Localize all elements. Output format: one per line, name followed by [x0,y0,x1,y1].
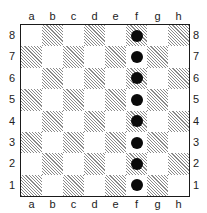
file-label-bottom-e: e [105,199,126,210]
file-label-top-c: c [63,11,84,22]
rank-label-right-4: 4 [190,116,202,127]
rank-label-right-2: 2 [190,158,202,169]
square-a1[interactable] [21,175,42,196]
black-disc-icon[interactable] [131,115,143,127]
square-g3[interactable] [147,132,168,153]
square-h5[interactable] [168,89,189,110]
square-g7[interactable] [147,46,168,67]
square-g6[interactable] [147,68,168,89]
file-label-bottom-h: h [168,199,189,210]
black-disc-icon[interactable] [131,158,143,170]
file-label-bottom-d: d [84,199,105,210]
square-h4[interactable] [168,111,189,132]
square-f4[interactable] [126,111,147,132]
rank-label-right-5: 5 [190,94,202,105]
square-h6[interactable] [168,68,189,89]
square-b6[interactable] [42,68,63,89]
square-a4[interactable] [21,111,42,132]
file-label-bottom-a: a [21,199,42,210]
file-label-bottom-c: c [63,199,84,210]
square-g1[interactable] [147,175,168,196]
square-c1[interactable] [63,175,84,196]
square-a5[interactable] [21,89,42,110]
square-f5[interactable] [126,89,147,110]
file-label-top-f: f [126,11,147,22]
square-b2[interactable] [42,153,63,174]
rank-label-right-1: 1 [190,180,202,191]
square-b7[interactable] [42,46,63,67]
square-e4[interactable] [105,111,126,132]
file-label-bottom-g: g [147,199,168,210]
square-c7[interactable] [63,46,84,67]
file-label-top-g: g [147,11,168,22]
rank-label-right-3: 3 [190,137,202,148]
square-b8[interactable] [42,25,63,46]
file-label-top-b: b [42,11,63,22]
square-c5[interactable] [63,89,84,110]
black-disc-icon[interactable] [131,30,143,42]
rank-label-left-6: 6 [6,73,18,84]
square-e3[interactable] [105,132,126,153]
square-a3[interactable] [21,132,42,153]
square-b4[interactable] [42,111,63,132]
black-disc-icon[interactable] [131,51,143,63]
file-label-top-a: a [21,11,42,22]
square-d2[interactable] [84,153,105,174]
square-d8[interactable] [84,25,105,46]
square-g4[interactable] [147,111,168,132]
square-d6[interactable] [84,68,105,89]
chessboard [20,24,190,197]
square-f7[interactable] [126,46,147,67]
rank-label-left-5: 5 [6,94,18,105]
rank-label-left-1: 1 [6,180,18,191]
square-e2[interactable] [105,153,126,174]
square-b5[interactable] [42,89,63,110]
file-label-bottom-f: f [126,199,147,210]
square-a2[interactable] [21,153,42,174]
square-b3[interactable] [42,132,63,153]
square-e6[interactable] [105,68,126,89]
square-g2[interactable] [147,153,168,174]
square-a8[interactable] [21,25,42,46]
file-label-top-e: e [105,11,126,22]
square-c3[interactable] [63,132,84,153]
square-h2[interactable] [168,153,189,174]
square-h7[interactable] [168,46,189,67]
board-grid [21,25,189,196]
square-f8[interactable] [126,25,147,46]
square-c2[interactable] [63,153,84,174]
square-g8[interactable] [147,25,168,46]
square-c8[interactable] [63,25,84,46]
square-c4[interactable] [63,111,84,132]
square-c6[interactable] [63,68,84,89]
square-d4[interactable] [84,111,105,132]
square-f6[interactable] [126,68,147,89]
file-label-top-h: h [168,11,189,22]
square-f3[interactable] [126,132,147,153]
square-e8[interactable] [105,25,126,46]
square-d3[interactable] [84,132,105,153]
square-e1[interactable] [105,175,126,196]
black-disc-icon[interactable] [131,137,143,149]
square-h8[interactable] [168,25,189,46]
black-disc-icon[interactable] [131,72,143,84]
square-a7[interactable] [21,46,42,67]
square-f1[interactable] [126,175,147,196]
square-h1[interactable] [168,175,189,196]
square-d7[interactable] [84,46,105,67]
square-d5[interactable] [84,89,105,110]
file-label-top-d: d [84,11,105,22]
square-e7[interactable] [105,46,126,67]
square-h3[interactable] [168,132,189,153]
black-disc-icon[interactable] [131,94,143,106]
square-a6[interactable] [21,68,42,89]
square-e5[interactable] [105,89,126,110]
rank-label-left-4: 4 [6,116,18,127]
black-disc-icon[interactable] [131,179,143,191]
square-g5[interactable] [147,89,168,110]
square-f2[interactable] [126,153,147,174]
square-d1[interactable] [84,175,105,196]
rank-label-right-6: 6 [190,73,202,84]
square-b1[interactable] [42,175,63,196]
rank-label-left-8: 8 [6,30,18,41]
